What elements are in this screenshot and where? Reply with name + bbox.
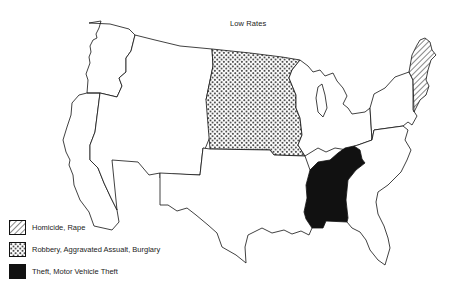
legend: Homicide, Rape Robbery, Aggravated Assua…	[9, 222, 160, 288]
region-east-north-central	[289, 60, 372, 156]
legend-label: Robbery, Aggravated Assualt, Burglary	[32, 245, 160, 254]
legend-item-theft-motor-vehicle-theft: Theft, Motor Vehicle Theft	[9, 266, 160, 277]
diagonal-hatch-swatch-icon	[9, 220, 26, 235]
legend-item-homicide-rape: Homicide, Rape	[9, 222, 160, 233]
legend-label: Theft, Motor Vehicle Theft	[32, 267, 118, 276]
solid-black-swatch-icon	[9, 264, 26, 279]
region-south-atlantic	[346, 126, 411, 265]
region-west-north-central	[206, 49, 305, 156]
legend-label: Homicide, Rape	[32, 223, 85, 232]
legend-item-robbery-assault-burglary: Robbery, Aggravated Assualt, Burglary	[9, 244, 160, 255]
dotted-swatch-icon	[9, 242, 26, 257]
